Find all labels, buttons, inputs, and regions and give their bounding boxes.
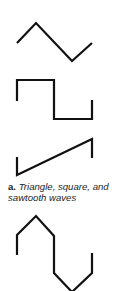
caption-text: Triangle, square, and sawtooth waves [8,181,109,203]
figure-caption: a. Triangle, square, and sawtooth waves [8,181,127,203]
caption-label: a. [8,181,16,192]
clipped-sine-wave [17,216,92,291]
square-wave [17,80,92,119]
waveform-diagram [0,0,127,291]
sawtooth-wave [17,139,92,175]
triangle-wave [17,23,92,61]
